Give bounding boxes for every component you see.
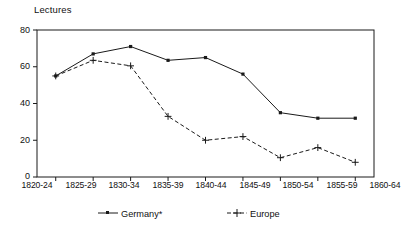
legend-swatch-europe: [227, 209, 247, 217]
data-point-marker: [279, 111, 282, 114]
series-line-europe: [52, 57, 358, 166]
data-point-marker: [316, 117, 319, 120]
data-point-marker: [92, 52, 95, 55]
chart-figure: Lectures 80 60 40 20 0 1820-24 1825-29 1…: [0, 0, 415, 234]
chart-canvas: [0, 0, 415, 234]
data-point-marker: [129, 45, 132, 48]
plot-area-border: [37, 30, 374, 177]
polyline-europe: [56, 60, 356, 162]
data-point-marker: [204, 56, 207, 59]
x-axis-ticks: [56, 177, 356, 181]
legend-square-marker-icon: [106, 211, 109, 214]
series-line-germany: [54, 45, 357, 120]
data-point-marker: [354, 117, 357, 120]
data-point-marker: [241, 73, 244, 76]
legend-swatch-germany: [98, 211, 118, 214]
plot-frame: [37, 30, 374, 177]
y-axis-ticks: [33, 30, 37, 177]
data-point-marker: [166, 59, 169, 62]
